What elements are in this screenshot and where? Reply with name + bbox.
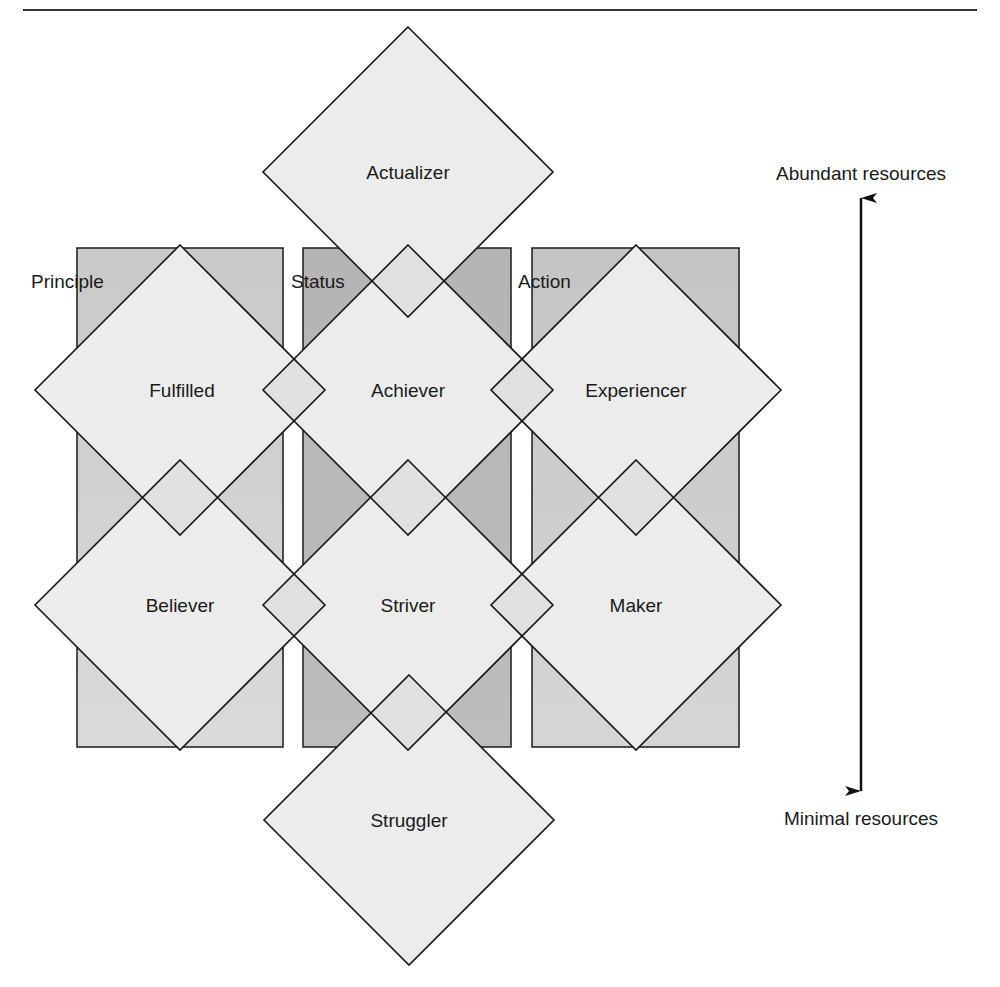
vals-diagram — [0, 0, 1000, 987]
resource-label-abundant: Abundant resources — [776, 164, 946, 183]
segment-label-experiencer: Experiencer — [585, 381, 686, 400]
segment-label-believer: Believer — [146, 596, 215, 615]
segment-label-actualizer: Actualizer — [366, 163, 449, 182]
column-label-status: Status — [291, 272, 345, 291]
segment-label-fulfilled: Fulfilled — [149, 381, 214, 400]
segment-label-struggler: Struggler — [370, 811, 447, 830]
column-label-principle: Principle — [31, 272, 104, 291]
segment-label-maker: Maker — [610, 596, 663, 615]
column-label-action: Action — [518, 272, 571, 291]
resource-label-minimal: Minimal resources — [784, 809, 938, 828]
segment-label-striver: Striver — [381, 596, 436, 615]
segment-label-achiever: Achiever — [371, 381, 445, 400]
